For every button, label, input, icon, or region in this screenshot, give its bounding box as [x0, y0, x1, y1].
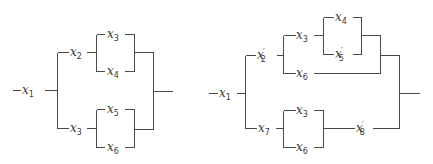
variable-label-x4: x4 [335, 10, 347, 26]
left-network-diagram: x1x2x3x4x3x5x6 [13, 27, 173, 156]
variable-label-x4: x4 [107, 64, 119, 80]
variable-label-x1: x1 [219, 86, 231, 102]
variable-label-x2-prime: x′2 [257, 47, 266, 64]
diagram-canvas: x1x2x3x4x3x5x6 x1x′2x3x4x′5x6x7x3x6x′8 [0, 0, 433, 164]
variable-label-x3-bottom: x3 [70, 121, 82, 137]
variable-label-x6-bottom: x6 [296, 140, 308, 156]
variable-label-x7: x7 [258, 121, 270, 137]
variable-label-x8-prime: x′8 [356, 120, 365, 137]
variable-label-x5: x5 [107, 102, 119, 118]
right-network-diagram: x1x′2x3x4x′5x6x7x3x6x′8 [209, 10, 420, 156]
variable-label-x6-top: x6 [296, 66, 308, 82]
variable-label-x5-prime: x′5 [335, 46, 344, 63]
variable-label-x3-top: x3 [107, 27, 119, 43]
variable-label-x1: x1 [22, 83, 34, 99]
variable-label-x2: x2 [70, 45, 82, 61]
variable-label-x3-top: x3 [296, 28, 308, 44]
variable-label-x3-bottom: x3 [296, 103, 308, 119]
variable-label-x6: x6 [107, 140, 119, 156]
